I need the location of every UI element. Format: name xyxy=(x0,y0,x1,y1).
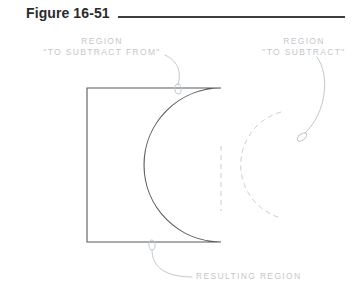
annotation-line-2: "TO SUBTRACT" xyxy=(252,47,356,58)
annotation-line-2: "TO SUBTRACT FROM" xyxy=(42,47,162,58)
resulting-region-outline xyxy=(87,88,221,242)
leader-line-subtract xyxy=(305,57,325,133)
leader-terminator-subtract xyxy=(296,131,308,143)
annotation-region-to-subtract-from: REGION "TO SUBTRACT FROM" xyxy=(42,36,162,58)
annotation-line-1: REGION xyxy=(42,36,162,47)
annotation-region-to-subtract: REGION "TO SUBTRACT" xyxy=(252,36,356,58)
annotation-line-1: RESULTING REGION xyxy=(196,271,302,282)
leader-terminator-resulting xyxy=(149,240,156,250)
leader-line-resulting xyxy=(152,250,192,277)
subtracted-circle-dashed-arc xyxy=(241,112,281,218)
leader-line-subtract-from xyxy=(165,55,179,85)
annotation-line-1: REGION xyxy=(252,36,356,47)
figure-page: Figure 16-51 REGION "TO SUBTRACT FROM" R… xyxy=(0,0,364,301)
annotation-resulting-region: RESULTING REGION xyxy=(196,271,302,282)
